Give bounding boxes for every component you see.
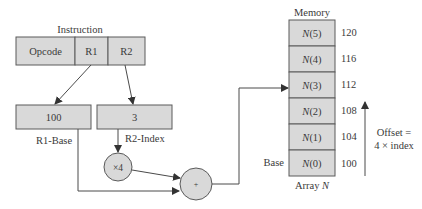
indexed-addressing-diagram: Instruction Opcode R1 R2 100 R1-Base 3 R… <box>0 0 422 209</box>
memory-cell-5-label: N(5) <box>301 28 322 40</box>
address-100: 100 <box>341 158 357 169</box>
address-108: 108 <box>341 105 357 116</box>
address-112: 112 <box>341 79 356 90</box>
instruction-title: Instruction <box>57 24 103 35</box>
r2-index-value: 3 <box>132 112 137 123</box>
opcode-label: Opcode <box>29 46 62 57</box>
r1-pointer-arrow <box>55 65 91 104</box>
memory-title: Memory <box>294 7 331 18</box>
r1-label: R1 <box>85 46 97 57</box>
r2-label: R2 <box>120 46 132 57</box>
address-120: 120 <box>341 27 357 38</box>
r2-pointer-arrow <box>125 65 133 104</box>
offset-label-line2: 4 × index <box>374 140 414 151</box>
base-label: Base <box>264 157 285 168</box>
effective-address-arrow <box>212 88 288 184</box>
memory-cell-1-label: N(1) <box>301 132 322 144</box>
add-label: + <box>194 180 199 189</box>
address-104: 104 <box>341 131 358 142</box>
memory-cell-3-label: N(3) <box>301 80 322 92</box>
memory-cell-2-label: N(2) <box>301 106 322 118</box>
instruction-register: Opcode R1 R2 <box>16 37 145 65</box>
memory-array: N(5) N(4) N(3) N(2) N(1) N(0) <box>289 20 335 176</box>
array-label: Array N <box>295 180 330 191</box>
address-116: 116 <box>341 53 356 64</box>
multiplier-to-adder-arrow <box>132 170 180 178</box>
memory-cell-4-label: N(4) <box>301 54 322 66</box>
multiply-label: ×4 <box>113 163 123 173</box>
r2-index-label: R2-Index <box>125 133 165 144</box>
r1-base-value: 100 <box>46 112 62 123</box>
memory-cell-0-label: N(0) <box>301 158 322 170</box>
r1-base-label: R1-Base <box>36 135 73 146</box>
offset-label-line1: Offset = <box>377 127 412 138</box>
